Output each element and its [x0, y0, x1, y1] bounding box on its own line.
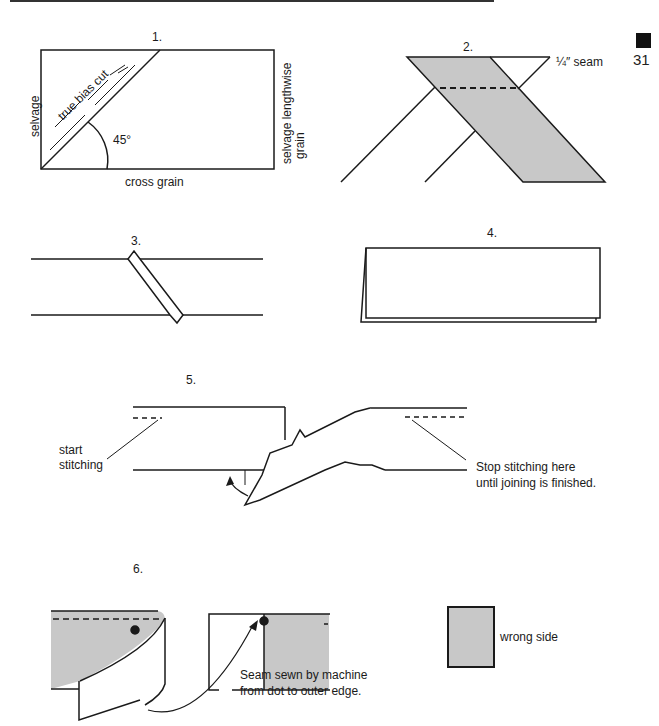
- stop-stitching-label-1: Stop stitching here: [476, 460, 575, 474]
- angle-label: 45°: [113, 133, 131, 147]
- step-6-label: 6.: [133, 562, 143, 576]
- step-6-figure: [51, 607, 494, 720]
- start-stitching-label-2: stitching: [59, 458, 103, 472]
- step-1-label: 1.: [152, 30, 162, 44]
- legend-wrong-side-label: wrong side: [500, 630, 558, 644]
- step-4-label: 4.: [487, 226, 497, 240]
- grain-right-label: grain: [293, 132, 307, 159]
- step-2-figure: [341, 57, 605, 182]
- cross-grain-label: cross grain: [125, 175, 184, 189]
- seam-sewn-label-2: from dot to outer edge.: [240, 684, 361, 698]
- stop-stitching-label-2: until joining is finished.: [476, 476, 596, 490]
- step-4-figure: [361, 248, 600, 322]
- step-2-label: 2.: [463, 40, 473, 54]
- quarter-inch-seam-label: ¼″ seam: [556, 55, 603, 69]
- diagram-artwork: [0, 0, 659, 726]
- seam-sewn-label-1: Seam sewn by machine: [240, 668, 367, 682]
- step-3-label: 3.: [131, 234, 141, 248]
- step-5-figure: [107, 407, 467, 505]
- step-5-label: 5.: [186, 373, 196, 387]
- step-3-figure: [31, 251, 263, 323]
- start-stitching-label-1: start: [59, 443, 82, 457]
- selvage-left-label: selvage: [28, 96, 42, 137]
- selvage-right-label: selvage lengthwise: [280, 63, 294, 164]
